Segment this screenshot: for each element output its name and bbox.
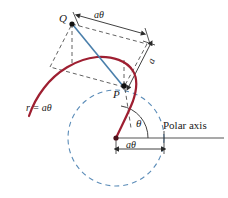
dimension-bottom-atheta [116, 131, 164, 154]
dimension-bottom-label: aθ [126, 140, 136, 150]
polar-spiral-figure: Q P θ aθ a aθ r = aθ Polar axis [0, 0, 228, 198]
point-q-marker [69, 21, 74, 26]
angle-theta-label: θ [136, 118, 141, 129]
segment-qp [73, 25, 123, 86]
point-p-label: P [113, 89, 120, 100]
point-q-label: Q [59, 13, 67, 24]
dimension-top-label: aθ [94, 10, 104, 20]
pole-marker [113, 135, 118, 140]
spiral-curve [29, 57, 136, 138]
point-p-marker [121, 83, 127, 89]
curve-equation-label: r = aθ [26, 103, 52, 113]
angle-arc-theta [121, 106, 148, 138]
polar-axis-label: Polar axis [163, 120, 207, 131]
